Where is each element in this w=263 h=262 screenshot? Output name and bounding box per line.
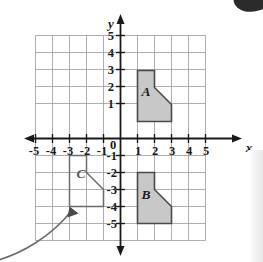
y-tick-label: -2 (107, 166, 117, 180)
coordinate-plane-figure: -5 -4 -3 -2 -1 1 2 3 4 5 5 4 3 2 1 -1 -2… (0, 0, 263, 262)
leader-arrow (0, 207, 79, 262)
y-tick-labels-negative: -1 -2 -3 -4 -5 (107, 149, 118, 231)
y-tick-label: -5 (107, 217, 117, 231)
x-tick-label: -4 (46, 144, 57, 158)
x-tick-label: 4 (186, 144, 193, 158)
y-tick-label: 3 (108, 63, 114, 77)
page-edge-shading (249, 150, 263, 262)
y-axis (117, 14, 125, 256)
x-tick-label: 5 (203, 144, 209, 158)
x-tick-label: 3 (169, 144, 175, 158)
shape-a-label: A (140, 84, 150, 99)
y-tick-label: 2 (108, 80, 114, 94)
x-tick-label: -2 (80, 144, 90, 158)
coordinate-plane-svg: -5 -4 -3 -2 -1 1 2 3 4 5 5 4 3 2 1 -1 -2… (0, 0, 263, 262)
y-tick-labels-positive: 5 4 3 2 1 (108, 29, 115, 111)
x-tick-label: 1 (135, 144, 141, 158)
y-tick-label: 1 (108, 97, 114, 111)
origin-label: 0 (110, 138, 116, 152)
x-axis (24, 135, 242, 143)
y-tick-label: -4 (107, 200, 118, 214)
y-axis-label: y (106, 16, 114, 31)
y-tick-label: 4 (108, 46, 115, 60)
x-tick-label: -5 (29, 144, 39, 158)
shape-b-label: B (140, 187, 150, 202)
x-tick-label: 2 (152, 144, 158, 158)
shape-c-label: C (76, 166, 86, 181)
y-tick-label: 5 (108, 29, 114, 43)
y-tick-label: -3 (107, 183, 117, 197)
x-tick-label: -3 (63, 144, 73, 158)
